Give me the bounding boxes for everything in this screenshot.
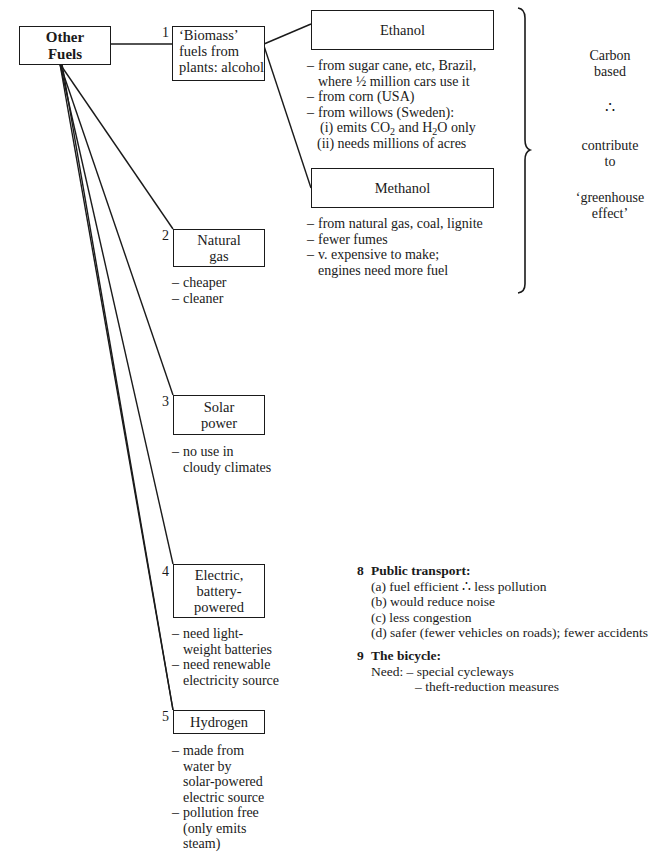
public-transport-item-a: (a) fuel efficient ∴ less pollution xyxy=(357,579,648,595)
node-methanol: Methanol xyxy=(311,168,494,208)
link-root-hydrogen xyxy=(60,64,173,710)
annotation-to: to xyxy=(555,154,665,170)
public-transport-item-d: (d) safer (fewer vehicles on roads); few… xyxy=(357,625,648,641)
node-electric: Electric, battery- powered xyxy=(173,564,265,618)
ethanol-label: Ethanol xyxy=(380,22,425,38)
annotation-therefore: ∴ xyxy=(555,100,665,116)
methanol-label: Methanol xyxy=(375,180,431,196)
biomass-label-line2: fuels from xyxy=(179,43,239,59)
annotation-greenhouse: ‘greenhouse xyxy=(555,190,665,206)
annotation-effect: effect’ xyxy=(555,206,665,222)
methanol-note-1: –from natural gas, coal, lignite xyxy=(307,216,483,232)
hydrogen-note-1: –made fromwater bysolar-poweredelectric … xyxy=(172,743,264,805)
branch-number-3: 3 xyxy=(162,395,169,409)
annotation-carbon: Carbon xyxy=(555,48,665,64)
branch-number-2: 2 xyxy=(162,229,169,243)
methanol-note-3: –v. expensive to make;engines need more … xyxy=(307,247,483,278)
annotation-based: based xyxy=(555,64,665,80)
section-bicycle: 9The bicycle: Need: – special cycleways … xyxy=(357,648,559,695)
branch-number-1: 1 xyxy=(162,26,169,40)
branch-number-5: 5 xyxy=(162,710,169,724)
branch-number-4: 4 xyxy=(162,565,169,579)
link-root-natural-gas xyxy=(60,64,173,229)
bicycle-need-1: Need: – special cycleways xyxy=(357,664,559,680)
ethanol-subnote-ii: (ii) needs millions of acres xyxy=(307,136,476,152)
node-ethanol: Ethanol xyxy=(311,10,494,50)
ethanol-note-3: –from willows (Sweden): xyxy=(307,105,476,121)
annotation-contribute: contribute xyxy=(555,138,665,154)
node-hydrogen: Hydrogen xyxy=(173,710,265,734)
biomass-label-line1: ‘Biomass’ xyxy=(179,27,239,43)
link-root-electric xyxy=(60,64,173,564)
natural-gas-note-1: –cheaper xyxy=(172,275,227,291)
natural-gas-notes: –cheaper –cleaner xyxy=(172,275,227,306)
electric-note-2: –need renewableelectricity source xyxy=(172,657,279,688)
hydrogen-note-2: –pollution free(only emitssteam) xyxy=(172,805,264,852)
public-transport-item-b: (b) would reduce noise xyxy=(357,594,648,610)
methanol-note-2: –fewer fumes xyxy=(307,232,483,248)
ethanol-note-2: –from corn (USA) xyxy=(307,89,476,105)
curly-brace xyxy=(518,8,530,293)
root-node-other-fuels: Other Fuels xyxy=(19,26,111,65)
hydrogen-notes: –made fromwater bysolar-poweredelectric … xyxy=(172,743,264,852)
bicycle-need-2: – theft-reduction measures xyxy=(357,679,559,695)
node-natural-gas: Natural gas xyxy=(173,229,265,267)
public-transport-item-c: (c) less congestion xyxy=(357,610,648,626)
node-biomass: ‘Biomass’ fuels from plants: alcohol xyxy=(172,26,265,81)
electric-notes: –need light-weight batteries –need renew… xyxy=(172,626,279,688)
solar-note-1: –no use incloudy climates xyxy=(172,444,271,475)
ethanol-notes: –from sugar cane, etc, Brazil,where ½ mi… xyxy=(307,58,476,151)
section-8-heading: 8Public transport: xyxy=(357,563,648,579)
root-label-line1: Other xyxy=(46,29,84,46)
link-root-solar xyxy=(60,64,173,395)
biomass-label-line3: plants: alcohol xyxy=(179,59,264,75)
natural-gas-note-2: –cleaner xyxy=(172,291,227,307)
solar-notes: –no use incloudy climates xyxy=(172,444,271,475)
section-9-heading: 9The bicycle: xyxy=(357,648,559,664)
node-solar-power: Solar power xyxy=(173,395,265,435)
ethanol-note-1: –from sugar cane, etc, Brazil,where ½ mi… xyxy=(307,58,476,89)
brace-annotation: Carbon based ∴ contribute to ‘greenhouse… xyxy=(555,48,665,222)
ethanol-subnote-i: (i) emits CO2 and H2O only xyxy=(307,120,476,136)
root-label-line2: Fuels xyxy=(48,46,82,63)
link-biomass-methanol xyxy=(264,46,311,188)
section-public-transport: 8Public transport: (a) fuel efficient ∴ … xyxy=(357,563,648,641)
link-biomass-ethanol xyxy=(264,24,311,44)
methanol-notes: –from natural gas, coal, lignite –fewer … xyxy=(307,216,483,278)
electric-note-1: –need light-weight batteries xyxy=(172,626,279,657)
